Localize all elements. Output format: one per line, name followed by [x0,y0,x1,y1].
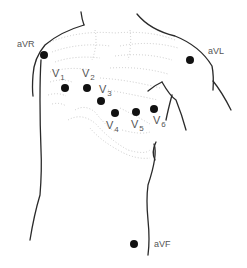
label-avr: aVR [17,40,35,49]
rib-cage [48,30,178,158]
electrode-v6 [150,105,158,113]
label-v1: V1 [52,68,65,82]
electrode-v2 [83,84,91,92]
label-v2: V2 [82,68,95,82]
label-avf: aVF [154,240,171,249]
electrode-avf [130,240,138,248]
electrode-v5 [132,108,140,116]
label-avl: aVL [208,47,224,56]
electrode-v3 [97,97,105,105]
label-v4: V4 [106,120,119,134]
label-v5: V5 [131,119,144,133]
label-v6: V6 [153,115,166,129]
label-v3: V3 [99,84,112,98]
electrode-avr [40,51,48,59]
electrode-v1 [61,84,69,92]
torso-diagram [0,0,247,268]
electrode-avl [186,56,194,64]
electrode-v4 [111,109,119,117]
